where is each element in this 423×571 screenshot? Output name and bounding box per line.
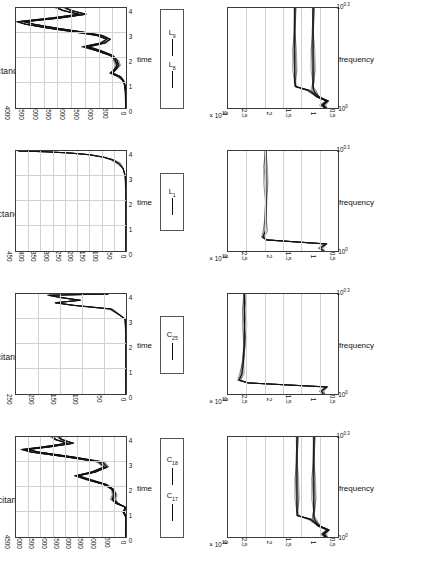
x-axis-label: time xyxy=(140,9,149,109)
y-tick-label: 2 xyxy=(267,110,271,117)
data-series-line xyxy=(18,151,126,251)
x-axis-label: frequency xyxy=(352,152,361,252)
data-series-line xyxy=(238,294,326,394)
y-tick-label: 3 xyxy=(223,539,227,546)
x-tick-label: 100.3 xyxy=(339,0,347,13)
y-tick-label: 0 xyxy=(121,110,125,117)
y-tick-label: 0 xyxy=(121,539,125,546)
panel-capacitances-1-frequency: × 1010 0.511.522.53 100100.3 frequency xyxy=(212,429,423,571)
data-series-line xyxy=(241,294,328,394)
data-series-line xyxy=(18,151,126,251)
y-tick-label: 3000 xyxy=(37,539,51,546)
data-series-line xyxy=(293,8,325,108)
x-tick-label: 4 xyxy=(127,9,134,13)
panel-capacitances-2-frequency: × 1010 0.511.522.53 100100.3 frequency xyxy=(212,286,423,428)
y-tick-label: 2.5 xyxy=(240,253,249,260)
series-plot xyxy=(16,294,126,394)
panel-title: inductances II xyxy=(2,0,12,142)
y-tick-label: 3000 xyxy=(28,110,42,117)
legend-capacitances-1: C17C18 xyxy=(160,438,184,538)
x-tick-label: 100.3 xyxy=(339,143,347,156)
x-tick-label: 100 xyxy=(339,389,347,399)
y-tick-label: 200 xyxy=(65,253,76,260)
y-tick-label: 150 xyxy=(48,396,59,403)
data-series-line xyxy=(25,8,126,108)
data-series-line xyxy=(295,437,326,537)
data-series-line xyxy=(261,151,325,251)
legend-entry-label: L9 xyxy=(168,29,175,39)
legend-inductances-1: L1 xyxy=(160,173,184,231)
y-tick-label: 2.5 xyxy=(240,396,249,403)
y-tick-label: 3 xyxy=(223,110,227,117)
series-plot xyxy=(16,151,126,251)
legend-entry: L9 xyxy=(167,30,177,56)
y-tick-label: 2 xyxy=(267,253,271,260)
x-axis-label: frequency xyxy=(352,438,361,538)
data-series-line xyxy=(22,8,125,108)
y-tick-label: 1500 xyxy=(70,110,84,117)
x-tick-label: 2 xyxy=(127,488,134,492)
data-series-line xyxy=(18,151,126,251)
plot-area xyxy=(227,7,339,109)
x-axis-label: time xyxy=(140,152,149,252)
panel-capacitances-2-time: capacitances II 050100150200250 01234 ti… xyxy=(0,286,211,428)
plot-area xyxy=(15,293,127,395)
y-tick-label: 0.5 xyxy=(328,396,337,403)
data-series-line xyxy=(265,151,328,251)
panel-inductances-1-time: inductances I 05010015020025030035040045… xyxy=(0,143,211,285)
y-tick-label: 0.5 xyxy=(328,110,337,117)
y-axis-ticks: 0.511.522.53 xyxy=(227,254,337,285)
y-tick-label: 4000 xyxy=(1,110,15,117)
legend-capacitances-2: C25 xyxy=(160,316,184,374)
x-tick-label: 3 xyxy=(127,320,134,324)
legend-entry: L8 xyxy=(167,62,177,88)
y-tick-label: 100 xyxy=(90,253,101,260)
figure-canvas: capacitances I 0500100015002000250030003… xyxy=(0,0,423,571)
plot-area xyxy=(15,150,127,252)
y-tick-label: 100 xyxy=(70,396,81,403)
y-axis-ticks: 0.511.522.53 xyxy=(227,397,337,428)
x-axis-label: time xyxy=(140,438,149,538)
y-tick-label: 1.5 xyxy=(284,253,293,260)
legend-line-swatch xyxy=(172,71,173,88)
legend-line-swatch xyxy=(172,40,173,57)
y-tick-label: 1 xyxy=(311,539,315,546)
legend-inductances-2: L8L9 xyxy=(160,9,184,109)
x-tick-label: 100 xyxy=(339,246,347,256)
y-tick-label: 1000 xyxy=(86,539,100,546)
legend-line-swatch xyxy=(172,198,173,215)
y-tick-label: 3 xyxy=(223,253,227,260)
y-tick-label: 450 xyxy=(4,253,15,260)
series-plot xyxy=(16,437,126,537)
y-tick-label: 3500 xyxy=(15,110,29,117)
y-tick-label: 1.5 xyxy=(284,396,293,403)
legend-line-swatch xyxy=(172,469,173,486)
legend-entry-label: C18 xyxy=(166,456,177,466)
y-tick-label: 250 xyxy=(53,253,64,260)
y-axis-ticks: 0.511.522.53 xyxy=(227,540,337,571)
x-tick-label: 4 xyxy=(127,152,134,156)
plot-area xyxy=(227,436,339,538)
legend-line-swatch xyxy=(172,504,173,521)
y-tick-label: 0.5 xyxy=(328,539,337,546)
panel-inductances-2-frequency: × 1010 0.511.522.53 100100.3 frequency xyxy=(212,0,423,142)
y-tick-label: 0 xyxy=(121,253,125,260)
data-series-line xyxy=(293,8,326,108)
data-series-line xyxy=(20,8,126,108)
data-series-line xyxy=(24,8,126,108)
y-tick-label: 50 xyxy=(106,253,113,260)
panel-title: capacitances I xyxy=(2,429,12,571)
data-series-line xyxy=(19,8,126,108)
legend-entry-label: C25 xyxy=(166,330,177,340)
y-axis-ticks: 050100150200250300350400450 xyxy=(15,254,125,285)
y-tick-label: 2.5 xyxy=(240,110,249,117)
x-tick-label: 0 xyxy=(127,109,134,113)
y-tick-label: 300 xyxy=(41,253,52,260)
y-tick-label: 1.5 xyxy=(284,539,293,546)
x-tick-label: 0 xyxy=(127,395,134,399)
x-axis-label: time xyxy=(140,295,149,395)
x-tick-label: 1 xyxy=(127,370,134,374)
panel-title: capacitances II xyxy=(2,286,12,428)
x-tick-label: 3 xyxy=(127,34,134,38)
panel-capacitances-1-time: capacitances I 0500100015002000250030003… xyxy=(0,429,211,571)
